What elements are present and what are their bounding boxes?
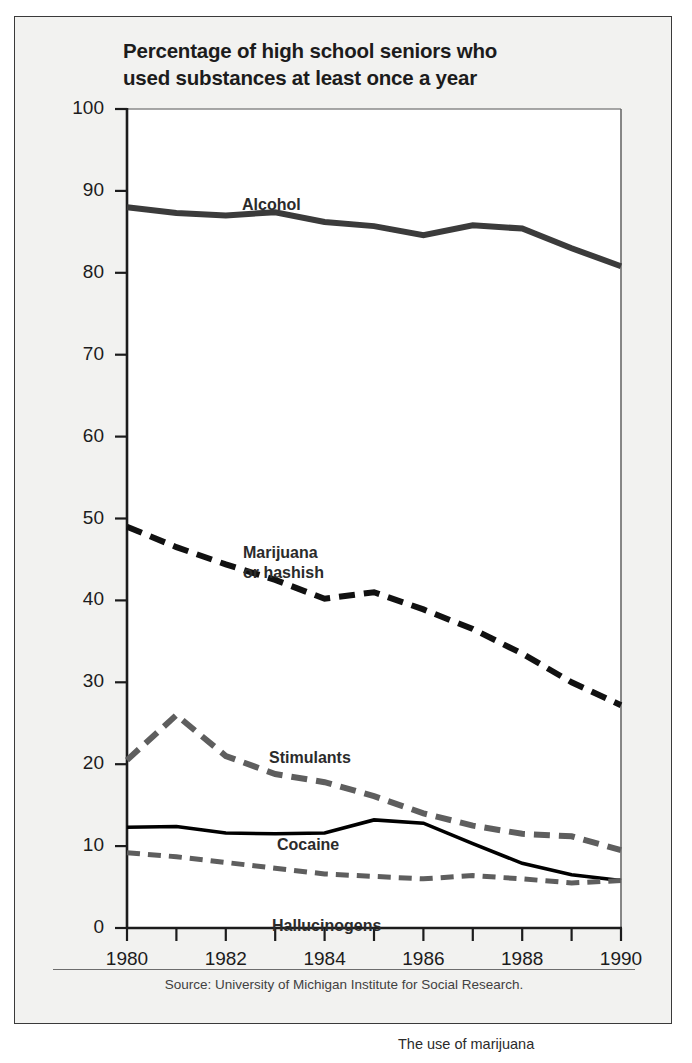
line-chart-svg	[15, 17, 673, 1025]
chart-figure: Percentage of high school seniors who us…	[14, 16, 672, 1024]
y-axis-label: 80	[32, 261, 104, 283]
x-axis-label: 1984	[280, 948, 370, 970]
x-axis-label: 1980	[82, 948, 172, 970]
x-axis-label: 1988	[477, 948, 567, 970]
series-label-cocaine: Cocaine	[277, 835, 339, 855]
y-axis-label: 0	[32, 916, 104, 938]
body-caption-fragment: The use of marijuana	[398, 1036, 534, 1052]
y-axis-label: 70	[32, 343, 104, 365]
y-axis-label: 40	[32, 588, 104, 610]
y-axis-label: 10	[32, 834, 104, 856]
y-axis-label: 90	[32, 179, 104, 201]
series-label-text: Marijuana	[243, 544, 318, 561]
series-label-alcohol: Alcohol	[242, 195, 301, 215]
y-axis-label: 20	[32, 752, 104, 774]
series-label-text: Hallucinogens	[272, 917, 381, 934]
y-axis-label: 100	[32, 97, 104, 119]
source-note: Source: University of Michigan Institute…	[53, 977, 635, 992]
series-label-text-line-2: or hashish	[243, 563, 324, 583]
plot-area	[15, 17, 673, 1025]
y-axis-label: 60	[32, 425, 104, 447]
series-label-text: Stimulants	[269, 749, 351, 766]
y-axis-label: 30	[32, 670, 104, 692]
series-label-stimulants: Stimulants	[269, 748, 351, 768]
plot-background	[127, 109, 621, 928]
series-label-text: Cocaine	[277, 836, 339, 853]
x-axis-label: 1990	[576, 948, 666, 970]
series-label-hallucinogens: Hallucinogens	[272, 916, 381, 936]
y-axis-label: 50	[32, 507, 104, 529]
series-label-text: Alcohol	[242, 196, 301, 213]
series-label-marijuana-or-hashish: Marijuanaor hashish	[243, 543, 324, 583]
x-axis-label: 1982	[181, 948, 271, 970]
x-axis-label: 1986	[378, 948, 468, 970]
